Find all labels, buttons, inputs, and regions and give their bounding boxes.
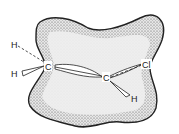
atom-h-lower-left: H [11, 69, 18, 79]
atom-c-right: C [103, 73, 110, 83]
atom-h-right: H [131, 94, 138, 104]
atom-h-upper-left: H [11, 40, 18, 50]
diagram-canvas: H H C C Cl H [0, 0, 179, 134]
atom-c-left: C [45, 62, 52, 72]
atom-cl: Cl [142, 60, 151, 70]
molecule-diagram: H H C C Cl H [0, 0, 179, 134]
